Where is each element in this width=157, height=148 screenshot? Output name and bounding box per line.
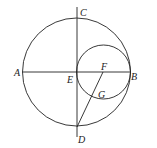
label-E: E — [66, 74, 73, 85]
label-G: G — [98, 89, 105, 100]
label-D: D — [77, 134, 86, 145]
label-F: F — [100, 61, 108, 72]
label-A: A — [13, 67, 21, 78]
label-C: C — [80, 7, 87, 18]
geometry-figure: A B C D E F G — [0, 0, 157, 148]
label-B: B — [131, 71, 137, 82]
